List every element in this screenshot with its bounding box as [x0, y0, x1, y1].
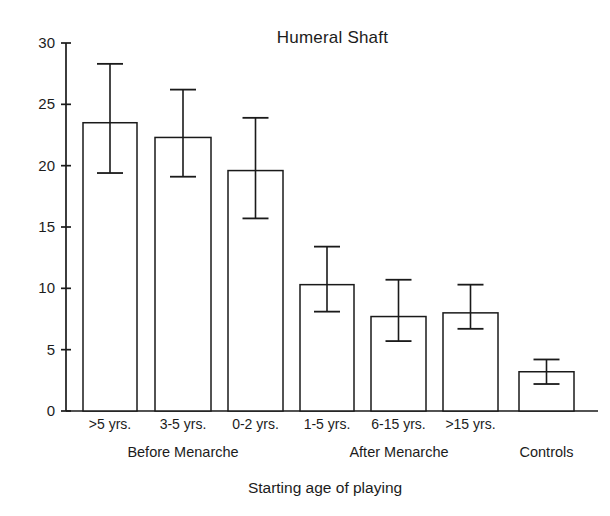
y-axis-tick-label: 20 [21, 157, 55, 174]
y-axis-tick-label: 30 [21, 34, 55, 51]
x-axis-title: Starting age of playing [0, 479, 610, 497]
y-axis-tick-label: 25 [21, 95, 55, 112]
x-axis-tick-label: >15 yrs. [411, 416, 531, 432]
x-axis-group-label: Controls [457, 444, 610, 460]
bar [155, 137, 211, 411]
bars-group [83, 123, 574, 411]
y-axis-tick-label: 10 [21, 279, 55, 296]
y-axis-tick-label: 5 [21, 341, 55, 358]
chart-figure: Humeral Shaft 051015202530 >5 yrs.3-5 yr… [0, 0, 610, 516]
y-axis-tick-label: 15 [21, 218, 55, 235]
plot-area [0, 0, 610, 516]
x-axis-group-label: Before Menarche [93, 444, 273, 460]
